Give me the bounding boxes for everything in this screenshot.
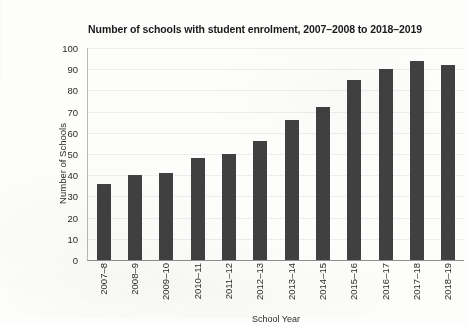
x-tick-label: 2017–18 (410, 263, 421, 300)
bar (441, 65, 455, 260)
bar-slot (245, 48, 276, 260)
bar (379, 69, 393, 260)
x-tick-slot: 2012–13 (244, 261, 275, 313)
x-tick-label: 2018–19 (442, 263, 453, 300)
x-tick-label: 2007–8 (97, 263, 108, 295)
x-tick-slot: 2008–9 (118, 261, 149, 313)
x-tick-slot: 2015–16 (338, 261, 369, 313)
x-tick-slot: 2014–15 (306, 261, 337, 313)
bar-slot (307, 48, 338, 260)
bar-slot (370, 48, 401, 260)
y-tick-label: 90 (67, 64, 78, 75)
bar (159, 173, 173, 260)
bar (97, 184, 111, 260)
bar (222, 154, 236, 260)
y-tick-label: 0 (73, 255, 78, 266)
x-tick-slot: 2016–17 (369, 261, 400, 313)
x-tick-label: 2012–13 (254, 263, 265, 300)
y-tick-label: 80 (67, 85, 78, 96)
bar-slot (151, 48, 182, 260)
bar (285, 120, 299, 260)
bar-series (88, 48, 464, 260)
y-tick-label: 60 (67, 127, 78, 138)
bar-slot (339, 48, 370, 260)
bar-slot (88, 48, 119, 260)
bar-slot (119, 48, 150, 260)
x-tick-slot: 2007–8 (87, 261, 118, 313)
bar (316, 107, 330, 260)
bar (347, 80, 361, 260)
y-tick-label: 10 (67, 233, 78, 244)
x-axis-tick-labels: 2007–82008–92009–102010–112011–122012–13… (87, 261, 463, 313)
bar (128, 175, 142, 260)
y-tick-label: 20 (67, 212, 78, 223)
bar-slot (276, 48, 307, 260)
x-tick-slot: 2009–10 (150, 261, 181, 313)
x-tick-label: 2011–12 (222, 263, 233, 299)
x-tick-slot: 2018–19 (432, 261, 463, 313)
bar (253, 141, 267, 260)
x-tick-slot: 2011–12 (212, 261, 243, 313)
y-tick-label: 50 (67, 149, 78, 160)
x-tick-slot: 2010–11 (181, 261, 212, 313)
y-tick-label: 70 (67, 106, 78, 117)
plot-area (87, 48, 464, 261)
bar-slot (213, 48, 244, 260)
y-axis-tick-labels: 1009080706050403020100 (40, 48, 83, 260)
x-tick-label: 2014–15 (316, 263, 327, 300)
x-tick-slot: 2017–18 (400, 261, 431, 313)
y-tick-label: 30 (67, 191, 78, 202)
x-tick-label: 2016–17 (379, 263, 390, 300)
x-axis-title: School Year (87, 314, 465, 324)
x-tick-label: 2015–16 (348, 263, 359, 300)
bar (410, 61, 424, 260)
y-tick-label: 40 (67, 170, 78, 181)
x-tick-label: 2009–10 (160, 263, 171, 300)
bar-chart: Number of schools with student enrolment… (40, 16, 468, 326)
bar (191, 158, 205, 260)
chart-title: Number of schools with student enrolment… (40, 23, 468, 35)
bar-slot (433, 48, 464, 260)
bar-slot (182, 48, 213, 260)
x-tick-slot: 2013–14 (275, 261, 306, 313)
x-tick-label: 2013–14 (285, 263, 296, 300)
x-tick-label: 2010–11 (191, 263, 202, 299)
y-tick-label: 100 (62, 43, 78, 54)
x-tick-label: 2008–9 (128, 263, 139, 295)
bar-slot (401, 48, 432, 260)
